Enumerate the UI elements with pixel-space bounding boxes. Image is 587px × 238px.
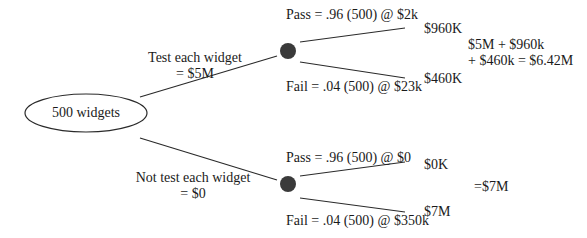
outcome-test-fail-label: Fail = .04 (500) @ $23k	[286, 79, 422, 95]
decision-not-test-line2: = $0	[133, 186, 253, 202]
outcome-test-pass-value: $960K	[424, 21, 462, 37]
decision-test-label: Test each widget = $5M	[140, 50, 250, 82]
outcome-not-test-fail-value: $7M	[424, 204, 450, 220]
outcome-not-test-pass-label: Pass = .96 (500) @ $0	[286, 150, 411, 166]
outcome-test-fail-value: $460K	[424, 71, 462, 87]
outcome-line-test-pass	[300, 28, 405, 42]
total-not-test: =$7M	[474, 179, 508, 195]
total-test-line1: $5M + $960k	[468, 37, 573, 53]
outcome-not-test-fail-label: Fail = .04 (500) @ $350k	[286, 213, 429, 229]
root-label: 500 widgets	[36, 105, 136, 121]
total-test-line2: + $460k = $6.42M	[468, 53, 573, 69]
outcome-line-test-fail	[300, 62, 405, 78]
chance-node-test	[280, 43, 296, 59]
outcome-test-pass-label: Pass = .96 (500) @ $2k	[286, 7, 418, 23]
outcome-not-test-pass-value: $0K	[424, 157, 448, 173]
decision-test-line2: = $5M	[140, 66, 250, 82]
decision-test-line1: Test each widget	[140, 50, 250, 66]
outcome-line-not-test-fail	[300, 198, 405, 212]
chance-node-not-test	[280, 176, 296, 192]
decision-not-test-line1: Not test each widget	[133, 170, 253, 186]
decision-not-test-label: Not test each widget = $0	[133, 170, 253, 202]
total-test: $5M + $960k + $460k = $6.42M	[468, 37, 573, 69]
